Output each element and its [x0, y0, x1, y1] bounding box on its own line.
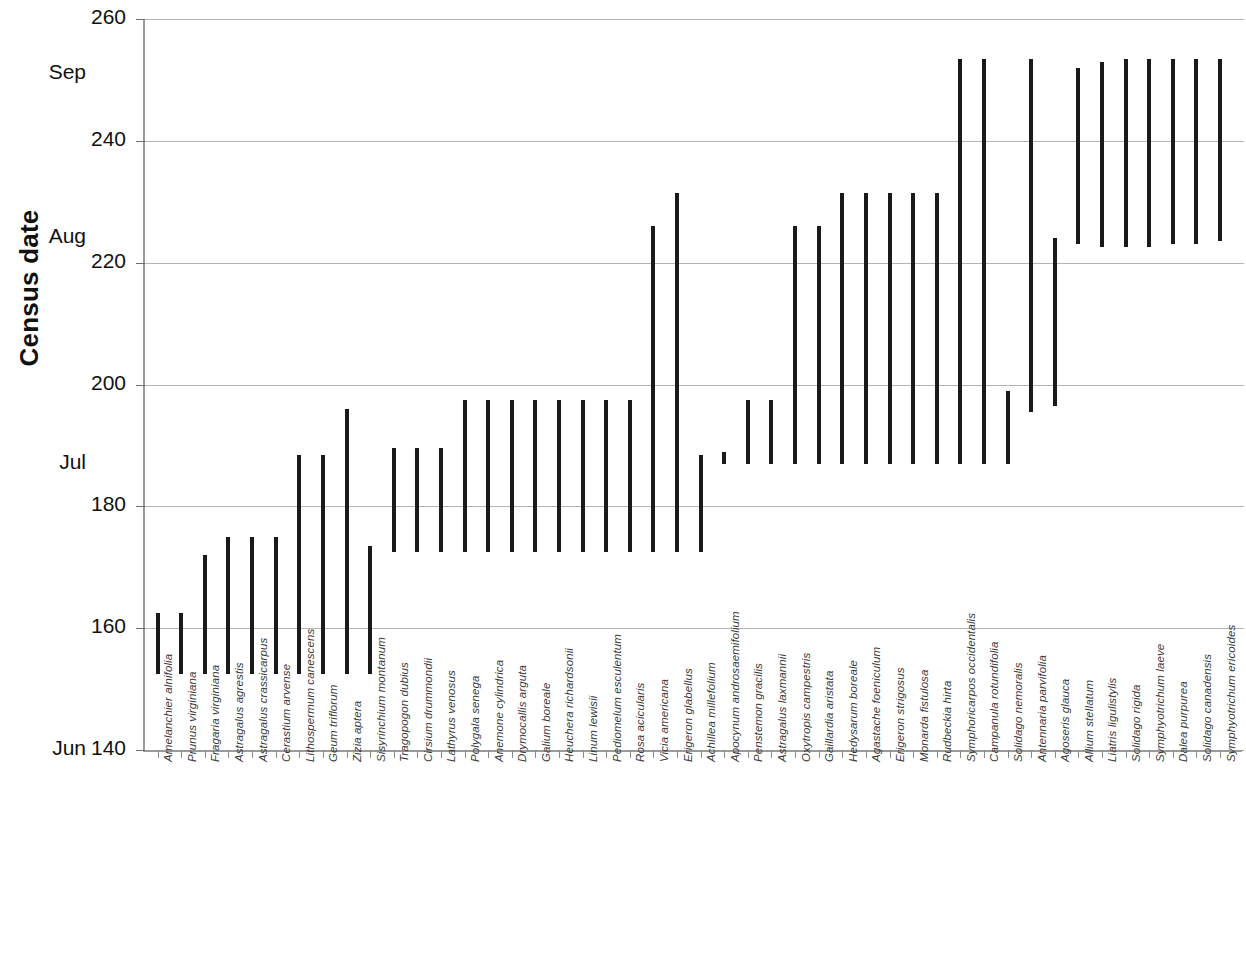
- x-tick-mark: [1149, 750, 1150, 758]
- bar: [463, 400, 467, 552]
- bar: [274, 537, 278, 674]
- bar: [392, 448, 396, 552]
- x-axis-species-label: Hedysarum boreale: [847, 660, 859, 762]
- x-tick-mark: [228, 750, 229, 758]
- x-tick-mark: [441, 750, 442, 758]
- x-tick-mark: [1031, 750, 1032, 758]
- y-axis-month-label: Jul: [0, 450, 86, 474]
- x-axis-species-label: Pediomelum esculentum: [611, 634, 623, 762]
- x-tick-mark: [630, 750, 631, 758]
- x-tick-mark: [488, 750, 489, 758]
- x-axis-species-label: Liatris ligulistylis: [1106, 678, 1118, 762]
- y-axis-month-label: Jun: [0, 736, 86, 760]
- bar: [722, 452, 726, 464]
- bar: [864, 193, 868, 464]
- x-tick-mark: [276, 750, 277, 758]
- x-axis-species-label: Sisyrinchium montanum: [375, 637, 387, 762]
- bar: [604, 400, 608, 552]
- bar: [1053, 238, 1057, 406]
- x-axis-species-label: Symphyotrichum laeve: [1154, 644, 1166, 762]
- bar: [1194, 59, 1198, 245]
- x-axis-species-label: Polygala senega: [469, 675, 481, 762]
- x-axis-species-label: Rudbeckia hirta: [941, 681, 953, 762]
- x-axis-species-label: Anemone cylindrica: [493, 660, 505, 762]
- x-tick-mark: [1078, 750, 1079, 758]
- bar: [1171, 59, 1175, 245]
- gridline: [145, 506, 1244, 507]
- y-tick-mark: [136, 750, 145, 751]
- y-axis-tick-label: 180: [34, 492, 126, 516]
- bar: [958, 59, 962, 464]
- y-axis-month-label: Sep: [0, 60, 86, 84]
- x-tick-mark: [960, 750, 961, 758]
- bar: [817, 226, 821, 464]
- bar: [533, 400, 537, 552]
- x-tick-mark: [158, 750, 159, 758]
- x-tick-mark: [819, 750, 820, 758]
- x-tick-mark: [984, 750, 985, 758]
- x-axis-species-label: Zizia aptera: [351, 701, 363, 762]
- x-axis-species-label: Achillea millefolium: [705, 662, 717, 762]
- x-axis-species-label: Geum triflorum: [327, 685, 339, 762]
- bar: [510, 400, 514, 552]
- x-tick-mark: [394, 750, 395, 758]
- bar: [203, 555, 207, 674]
- y-axis-tick-label: 200: [34, 371, 126, 395]
- y-tick-mark: [136, 506, 145, 507]
- bar: [486, 400, 490, 552]
- x-tick-mark: [417, 750, 418, 758]
- x-tick-mark: [583, 750, 584, 758]
- y-tick-mark: [136, 385, 145, 386]
- bar: [415, 448, 419, 552]
- x-axis-species-label: Amelanchier alnifolia: [162, 654, 174, 762]
- x-axis-species-label: Solidago canadensis: [1201, 654, 1213, 762]
- x-axis-species-label: Erigeron strigosus: [894, 668, 906, 762]
- x-axis-species-label: Campanula rotundifolia: [988, 642, 1000, 762]
- bar: [226, 537, 230, 674]
- bar: [935, 193, 939, 464]
- bar: [368, 546, 372, 674]
- x-axis-species-label: Tragopogon dubius: [398, 662, 410, 762]
- x-tick-mark: [535, 750, 536, 758]
- x-tick-mark: [1008, 750, 1009, 758]
- gridline: [145, 385, 1244, 386]
- x-tick-mark: [1220, 750, 1221, 758]
- x-axis-species-label: Drymocallis arguta: [516, 665, 528, 762]
- x-tick-mark: [252, 750, 253, 758]
- bar: [345, 409, 349, 674]
- x-axis-species-label: Agastache foeniculum: [870, 647, 882, 762]
- x-axis-species-label: Linum lewisii: [587, 696, 599, 763]
- x-axis-species-label: Prunus virginiana: [186, 671, 198, 762]
- bar: [651, 226, 655, 552]
- x-tick-mark: [1196, 750, 1197, 758]
- bar: [250, 537, 254, 674]
- bar: [297, 455, 301, 674]
- y-tick-mark: [136, 263, 145, 264]
- x-tick-mark: [937, 750, 938, 758]
- bar: [888, 193, 892, 464]
- x-axis-species-label: Solidago nemoralis: [1012, 662, 1024, 762]
- x-tick-mark: [559, 750, 560, 758]
- x-axis-species-label: Astragalus laxmannii: [776, 654, 788, 762]
- x-tick-mark: [724, 750, 725, 758]
- x-axis-species-label: Lathyrus venosus: [445, 670, 457, 762]
- x-tick-mark: [1102, 750, 1103, 758]
- x-axis-species-label: Symphyotrichum ericoides: [1225, 625, 1237, 762]
- x-axis-species-label: Monarda fistulosa: [918, 670, 930, 762]
- y-tick-mark: [136, 19, 145, 20]
- x-tick-mark: [913, 750, 914, 758]
- bar: [1147, 59, 1151, 248]
- y-tick-mark: [136, 141, 145, 142]
- x-axis-species-label: Oxytropis campestris: [800, 653, 812, 762]
- x-axis-species-label: Galium boreale: [540, 683, 552, 762]
- x-tick-mark: [205, 750, 206, 758]
- bar: [581, 400, 585, 552]
- y-axis-tick-label: 220: [34, 249, 126, 273]
- x-tick-mark: [606, 750, 607, 758]
- bar: [439, 448, 443, 552]
- y-tick-mark: [136, 628, 145, 629]
- x-tick-mark: [866, 750, 867, 758]
- bar: [321, 455, 325, 674]
- x-tick-mark: [842, 750, 843, 758]
- x-tick-mark: [299, 750, 300, 758]
